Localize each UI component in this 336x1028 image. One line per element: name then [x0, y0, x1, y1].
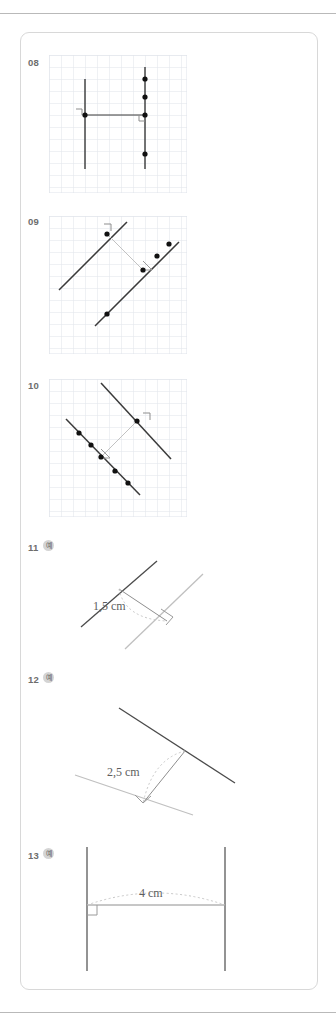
exercise-13: 13 예 4 cm — [21, 821, 319, 991]
exercise-12-measure-label: 2,5 cm — [107, 765, 140, 779]
exercise-08: 08 — [21, 33, 319, 195]
exercise-11-number: 11 — [28, 543, 39, 553]
point — [154, 253, 159, 258]
exercise-11: 11 예 1,5 cm — [21, 521, 319, 651]
exercise-08-number: 08 — [28, 58, 39, 68]
exercise-09: 09 — [21, 195, 319, 358]
right-angle-mark — [87, 905, 97, 915]
page-bottom-rule — [0, 1012, 336, 1013]
exercise-12-figure: 2,5 cm — [57, 663, 267, 821]
exercise-08-figure — [49, 55, 187, 193]
point — [134, 418, 139, 423]
grid-background — [49, 216, 187, 354]
exercise-09-figure — [49, 216, 187, 354]
point — [112, 468, 117, 473]
worksheet-panel: 08 09 — [20, 32, 318, 990]
exercise-12-example-badge: 예 — [43, 672, 54, 683]
exercise-13-figure: 4 cm — [57, 839, 267, 984]
exercise-10: 10 — [21, 358, 319, 521]
distance-segment — [143, 751, 185, 803]
exercise-13-example-badge: 예 — [43, 848, 54, 859]
exercise-10-figure — [49, 379, 187, 517]
exercise-11-measure-label: 1,5 cm — [93, 599, 126, 613]
point — [88, 442, 93, 447]
grid-background — [49, 55, 187, 193]
point — [166, 241, 171, 246]
exercise-10-number: 10 — [28, 381, 39, 391]
point — [76, 430, 81, 435]
exercise-12-number: 12 — [28, 675, 39, 685]
exercise-13-measure-label: 4 cm — [139, 886, 163, 900]
page-top-rule — [0, 13, 336, 14]
point — [142, 112, 147, 117]
exercise-12: 12 예 2,5 cm — [21, 651, 319, 821]
point — [98, 454, 103, 459]
exercise-13-number: 13 — [28, 851, 39, 861]
right-angle-mark — [161, 609, 173, 625]
point — [140, 267, 145, 272]
point — [104, 311, 109, 316]
exercise-09-number: 09 — [28, 217, 39, 227]
exercise-11-figure: 1,5 cm — [63, 531, 243, 651]
line-b — [75, 775, 193, 815]
exercise-11-example-badge: 예 — [43, 540, 54, 551]
point — [142, 76, 147, 81]
grid-background — [49, 379, 187, 517]
point — [142, 94, 147, 99]
point — [125, 480, 130, 485]
point — [142, 151, 147, 156]
point — [104, 231, 109, 236]
point — [82, 112, 87, 117]
distance-segment — [119, 589, 167, 621]
